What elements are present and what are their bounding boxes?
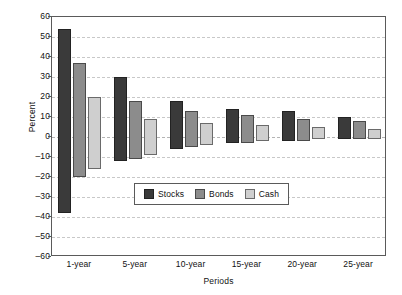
- y-tick-label: 0: [4, 132, 50, 141]
- bar-cash-20-year: [312, 127, 325, 139]
- y-tick-label: –40: [4, 212, 50, 221]
- legend-label: Cash: [259, 189, 279, 199]
- bar-stocks-15-year: [226, 109, 239, 143]
- bar-bonds-15-year: [241, 115, 254, 143]
- x-tick-label: 15-year: [216, 259, 276, 269]
- bar-stocks-25-year: [338, 117, 351, 139]
- bar-cash-10-year: [200, 123, 213, 145]
- legend-entry-stocks[interactable]: Stocks: [144, 189, 184, 199]
- y-tick-mark: [48, 256, 51, 257]
- gridline: [52, 237, 385, 238]
- bar-bonds-5-year: [129, 101, 142, 159]
- bar-stocks-5-year: [114, 77, 127, 161]
- gridline: [52, 77, 385, 78]
- bar-bonds-20-year: [297, 119, 310, 141]
- legend-swatch-icon: [144, 189, 154, 199]
- bar-group: [338, 17, 381, 255]
- x-axis-tick-labels: 1-year5-year10-year15-year20-year25-year: [51, 259, 386, 273]
- bar-cash-5-year: [144, 119, 157, 155]
- bar-cash-25-year: [368, 129, 381, 139]
- x-tick-label: 20-year: [272, 259, 332, 269]
- y-tick-label: 30: [4, 72, 50, 81]
- bar-bonds-25-year: [353, 121, 366, 139]
- gridline: [52, 57, 385, 58]
- y-tick-label: 50: [4, 32, 50, 41]
- bar-group: [226, 17, 269, 255]
- legend-label: Bonds: [209, 189, 234, 199]
- gridline: [52, 157, 385, 158]
- bar-group: [58, 17, 101, 255]
- bar-bonds-1-year: [73, 63, 86, 177]
- gridline: [52, 37, 385, 38]
- legend-label: Stocks: [158, 189, 184, 199]
- y-tick-label: –60: [4, 252, 50, 261]
- chart-legend: StocksBondsCash: [134, 183, 289, 205]
- zero-line: [52, 137, 385, 138]
- y-tick-label: –20: [4, 172, 50, 181]
- x-tick-label: 25-year: [328, 259, 388, 269]
- y-tick-label: 60: [4, 12, 50, 21]
- bar-stocks-10-year: [170, 101, 183, 149]
- bar-stocks-20-year: [282, 111, 295, 141]
- y-tick-label: –50: [4, 232, 50, 241]
- bar-bonds-10-year: [185, 111, 198, 147]
- bar-cash-1-year: [88, 97, 101, 169]
- bar-group: [170, 17, 213, 255]
- gridline: [52, 177, 385, 178]
- y-tick-label: –30: [4, 192, 50, 201]
- bar-stocks-1-year: [58, 29, 71, 213]
- legend-swatch-icon: [195, 189, 205, 199]
- x-tick-label: 5-year: [105, 259, 165, 269]
- y-tick-label: 20: [4, 92, 50, 101]
- y-axis-tick-labels: 6050403020100–10–20–30–40–50–60: [0, 0, 50, 295]
- legend-entry-bonds[interactable]: Bonds: [195, 189, 234, 199]
- bar-group: [114, 17, 157, 255]
- y-tick-label: –10: [4, 152, 50, 161]
- y-tick-label: 10: [4, 112, 50, 121]
- y-tick-label: 40: [4, 52, 50, 61]
- legend-entry-cash[interactable]: Cash: [245, 189, 279, 199]
- gridline: [52, 117, 385, 118]
- x-tick-label: 10-year: [161, 259, 221, 269]
- legend-swatch-icon: [245, 189, 255, 199]
- chart-figure: Percent 6050403020100–10–20–30–40–50–60 …: [0, 0, 402, 295]
- plot-area: [51, 16, 386, 256]
- x-tick-label: 1-year: [49, 259, 109, 269]
- gridline: [52, 217, 385, 218]
- bar-group: [282, 17, 325, 255]
- x-axis-title: Periods: [51, 276, 386, 286]
- gridline: [52, 97, 385, 98]
- bar-cash-15-year: [256, 125, 269, 141]
